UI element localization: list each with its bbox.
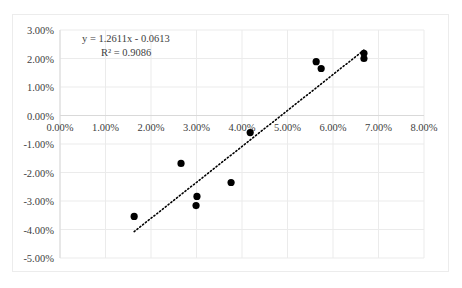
y-tick-label: -5.00% <box>23 253 54 264</box>
x-tick-label: 3.00% <box>183 122 210 133</box>
data-point-marker <box>318 65 325 72</box>
trendline <box>134 50 364 232</box>
y-tick-label: 2.00% <box>27 54 54 65</box>
data-point-marker <box>360 55 367 62</box>
scatter-chart: 0.00%1.00%2.00%3.00%4.00%5.00%6.00%7.00%… <box>0 0 462 288</box>
data-point-marker <box>313 58 320 65</box>
y-tick-label: -2.00% <box>23 168 54 179</box>
data-point-marker <box>193 193 200 200</box>
x-tick-label: 2.00% <box>137 122 164 133</box>
y-tick-label: 0.00% <box>27 111 54 122</box>
x-tick-label: 6.00% <box>319 122 346 133</box>
y-tick-label: -1.00% <box>23 139 54 150</box>
y-tick-label: 3.00% <box>27 25 54 36</box>
linear-trendline <box>134 50 364 232</box>
data-point-marker <box>192 202 199 209</box>
data-point-marker <box>247 129 254 136</box>
x-tick-label: 5.00% <box>274 122 301 133</box>
x-tick-label: 8.00% <box>410 122 437 133</box>
trendline-r-squared: R² = 0.9086 <box>101 47 151 58</box>
x-tick-label: 7.00% <box>365 122 392 133</box>
data-point-marker <box>177 160 184 167</box>
x-tick-label: 0.00% <box>46 122 73 133</box>
y-tick-label: -3.00% <box>23 196 54 207</box>
x-axis-ticks: 0.00%1.00%2.00%3.00%4.00%5.00%6.00%7.00%… <box>46 122 437 133</box>
data-point-marker <box>131 213 138 220</box>
gridlines <box>60 30 424 258</box>
y-axis-ticks: 3.00%2.00%1.00%0.00%-1.00%-2.00%-3.00%-4… <box>23 25 54 264</box>
y-tick-label: -4.00% <box>23 225 54 236</box>
trendline-equation: y = 1.2611x - 0.0613 <box>82 33 170 44</box>
x-tick-label: 1.00% <box>92 122 119 133</box>
y-tick-label: 1.00% <box>27 82 54 93</box>
data-point-marker <box>227 179 234 186</box>
